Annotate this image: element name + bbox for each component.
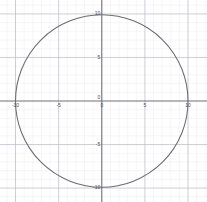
y-tick-label: -10 <box>93 184 100 190</box>
y-tick-label: -5 <box>96 141 101 147</box>
x-tick-label: -10 <box>12 102 19 108</box>
x-tick-label: 5 <box>144 102 147 108</box>
y-tick-label: 5 <box>97 54 100 60</box>
circle-plot: -10-50510105-5-100 <box>0 0 207 202</box>
chart-container: -10-50510105-5-100 <box>0 0 207 202</box>
x-tick-label: 10 <box>185 102 191 108</box>
x-tick-label: -5 <box>56 102 61 108</box>
origin-label: 0 <box>97 94 100 100</box>
y-tick-label: 10 <box>95 10 101 16</box>
x-tick-label: 0 <box>100 102 103 108</box>
